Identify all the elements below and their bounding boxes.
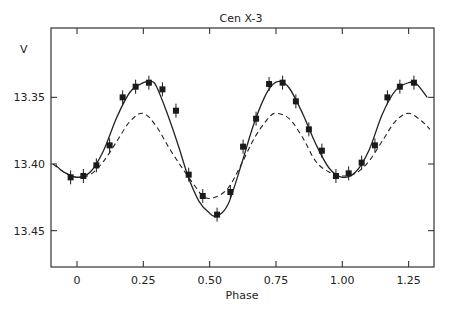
data-point [214, 208, 220, 222]
dashed-model-curve [53, 113, 430, 198]
square-marker [68, 174, 74, 180]
x-tick-label: 1.25 [396, 274, 421, 287]
square-marker [107, 142, 113, 148]
square-marker [333, 173, 339, 179]
data-point [333, 169, 339, 183]
x-tick-label: 1.00 [330, 274, 355, 287]
square-marker [253, 116, 259, 122]
data-point [411, 76, 417, 90]
y-tick-label: 13.35 [14, 91, 46, 104]
data-point [146, 76, 152, 90]
square-marker [372, 142, 378, 148]
square-marker [120, 94, 126, 100]
axis-ticks: 00.250.500.751.001.2513.3513.4013.45 [14, 28, 435, 287]
data-point [80, 169, 86, 183]
square-marker [146, 80, 152, 86]
data-points [68, 76, 417, 222]
data-point [346, 166, 352, 180]
data-point [173, 104, 179, 118]
square-marker [346, 170, 352, 176]
square-marker [200, 193, 206, 199]
square-marker [384, 94, 390, 100]
data-point [68, 170, 74, 184]
data-point [397, 80, 403, 94]
square-marker [159, 86, 165, 92]
data-point [280, 76, 286, 90]
x-tick-label: 0 [74, 274, 81, 287]
data-point [384, 90, 390, 104]
square-marker [319, 148, 325, 154]
light-curve-chart: Cen X-3 V Phase 00.250.500.751.001.2513.… [0, 0, 449, 312]
square-marker [214, 212, 220, 218]
square-marker [280, 80, 286, 86]
square-marker [411, 80, 417, 86]
x-axis-label: Phase [226, 289, 259, 302]
square-marker [133, 84, 139, 90]
square-marker [306, 126, 312, 132]
y-tick-label: 13.45 [14, 225, 46, 238]
square-marker [93, 162, 99, 168]
data-point [319, 144, 325, 158]
y-axis-label: V [20, 43, 28, 56]
y-tick-label: 13.40 [14, 158, 46, 171]
square-marker [80, 173, 86, 179]
chart-title: Cen X-3 [220, 12, 263, 25]
data-point [266, 77, 272, 91]
square-marker [397, 84, 403, 90]
square-marker [227, 189, 233, 195]
square-marker [186, 172, 192, 178]
square-marker [173, 108, 179, 114]
square-marker [293, 98, 299, 104]
x-tick-label: 0.50 [197, 274, 222, 287]
square-marker [240, 144, 246, 150]
data-point [120, 90, 126, 104]
data-point [200, 189, 206, 203]
square-marker [359, 160, 365, 166]
data-point [133, 80, 139, 94]
square-marker [266, 81, 272, 87]
x-tick-label: 0.75 [264, 274, 289, 287]
x-tick-label: 0.25 [131, 274, 156, 287]
